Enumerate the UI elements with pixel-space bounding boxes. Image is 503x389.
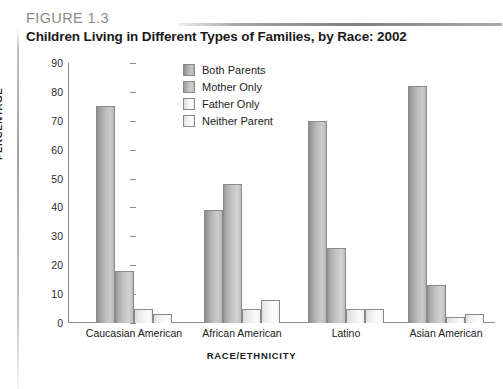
bar — [242, 309, 261, 323]
x-tick-label: African American — [202, 327, 281, 339]
bar-group — [96, 63, 172, 323]
y-tick-label: 40 — [51, 201, 63, 213]
x-tick-label: Latino — [332, 327, 361, 339]
legend-item: Both Parents — [183, 62, 273, 78]
legend-label: Both Parents — [202, 64, 266, 76]
bar — [408, 86, 427, 323]
x-tick-label: Asian American — [410, 327, 483, 339]
plot-area: 0102030405060708090 — [68, 63, 494, 323]
bar — [346, 309, 365, 323]
x-axis-title: RACE/ETHNICITY — [0, 350, 503, 361]
bar — [308, 121, 327, 323]
y-tick-label: 0 — [57, 317, 63, 329]
page-gutter-rule — [17, 28, 19, 389]
bar — [446, 317, 465, 323]
legend-item: Neither Parent — [183, 113, 273, 129]
y-axis-title: PERCENTAGE — [0, 88, 4, 160]
bar — [327, 248, 346, 323]
y-tick-label: 10 — [51, 288, 63, 300]
bar — [96, 106, 115, 323]
y-tick-label: 60 — [51, 144, 63, 156]
figure-title: Children Living in Different Types of Fa… — [26, 29, 407, 44]
y-tick-label: 70 — [51, 115, 63, 127]
y-tick-label: 30 — [51, 230, 63, 242]
legend-swatch-icon — [183, 115, 195, 127]
legend-swatch-icon — [183, 98, 195, 110]
bar-group — [308, 63, 384, 323]
chart-legend: Both ParentsMother OnlyFather OnlyNeithe… — [183, 62, 273, 130]
bar — [204, 210, 223, 323]
bar — [427, 285, 446, 323]
legend-swatch-icon — [183, 81, 195, 93]
legend-label: Father Only — [202, 98, 259, 110]
bar — [115, 271, 134, 323]
legend-swatch-icon — [183, 64, 195, 76]
legend-item: Father Only — [183, 96, 273, 112]
header-divider-rule — [178, 23, 502, 26]
figure-page: FIGURE 1.3 Children Living in Different … — [0, 0, 503, 389]
x-tick-label: Caucasian American — [86, 327, 182, 339]
y-tick-label: 90 — [51, 57, 63, 69]
y-tick-0 — [130, 323, 136, 324]
y-tick-label: 50 — [51, 173, 63, 185]
legend-label: Mother Only — [202, 81, 262, 93]
y-tick-label: 80 — [51, 86, 63, 98]
y-tick-label: 20 — [51, 259, 63, 271]
bar — [223, 184, 242, 323]
bar — [465, 314, 484, 323]
bar — [261, 300, 280, 323]
legend-label: Neither Parent — [202, 115, 273, 127]
bar — [153, 314, 172, 323]
bar — [365, 309, 384, 323]
figure-number-label: FIGURE 1.3 — [26, 10, 109, 26]
legend-item: Mother Only — [183, 79, 273, 95]
bar-group — [408, 63, 484, 323]
bar — [134, 309, 153, 323]
